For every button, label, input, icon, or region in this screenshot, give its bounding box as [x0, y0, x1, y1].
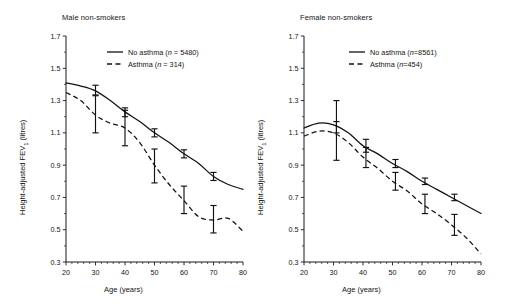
- x-tick-label: 80: [477, 268, 485, 277]
- error-bar: [210, 172, 216, 180]
- y-tick-label: 0.3: [289, 258, 299, 267]
- y-tick-label: 0.9: [289, 161, 299, 170]
- x-tick-label: 30: [330, 268, 338, 277]
- plot-area-female: 0.30.50.70.91.11.31.51.720304050607080No…: [264, 0, 528, 307]
- error-bar: [181, 150, 187, 158]
- legend-label: No asthma (n = 5480): [128, 48, 199, 57]
- y-tick-label: 0.3: [51, 258, 61, 267]
- error-bar: [151, 129, 157, 137]
- y-tick-label: 0.7: [289, 193, 299, 202]
- error-bar: [181, 186, 187, 213]
- error-bar: [151, 149, 157, 183]
- x-tick-label: 50: [151, 268, 159, 277]
- x-tick-label: 20: [300, 268, 308, 277]
- figure-root: Male non-smokers Height-adjusted FEV1 (l…: [0, 0, 528, 307]
- y-tick-label: 1.5: [51, 64, 61, 73]
- panel-male-non-smokers: Male non-smokers Height-adjusted FEV1 (l…: [0, 0, 264, 307]
- y-tick-label: 1.7: [51, 32, 61, 41]
- legend-label: Asthma (n=454): [370, 60, 422, 69]
- y-tick-label: 0.5: [289, 225, 299, 234]
- x-tick-label: 30: [92, 268, 100, 277]
- x-tick-label: 70: [210, 268, 218, 277]
- error-bar: [422, 194, 428, 213]
- x-tick-label: 80: [239, 268, 247, 277]
- y-tick-label: 0.5: [51, 225, 61, 234]
- y-tick-label: 1.1: [289, 128, 299, 137]
- error-bar: [210, 206, 216, 233]
- x-tick-label: 20: [62, 268, 70, 277]
- x-tick-label: 60: [180, 268, 188, 277]
- plot-area-male: 0.30.50.70.91.11.31.51.720304050607080No…: [0, 0, 264, 307]
- legend-label: No asthma (n=8561): [370, 48, 437, 57]
- x-tick-label: 40: [359, 268, 367, 277]
- x-tick-label: 60: [418, 268, 426, 277]
- x-tick-label: 40: [121, 268, 129, 277]
- error-bar: [122, 110, 128, 146]
- legend-label: Asthma (n = 314): [128, 60, 184, 69]
- y-tick-label: 0.7: [51, 193, 61, 202]
- y-tick-label: 1.3: [289, 96, 299, 105]
- error-bar: [92, 96, 98, 133]
- x-tick-label: 70: [448, 268, 456, 277]
- x-tick-label: 50: [389, 268, 397, 277]
- y-tick-label: 1.1: [51, 128, 61, 137]
- panel-female-non-smokers: Female non-smokers Height-adjusted FEV1 …: [264, 0, 528, 307]
- y-tick-label: 0.9: [51, 161, 61, 170]
- y-tick-label: 1.7: [289, 32, 299, 41]
- y-tick-label: 1.5: [289, 64, 299, 73]
- y-tick-label: 1.3: [51, 96, 61, 105]
